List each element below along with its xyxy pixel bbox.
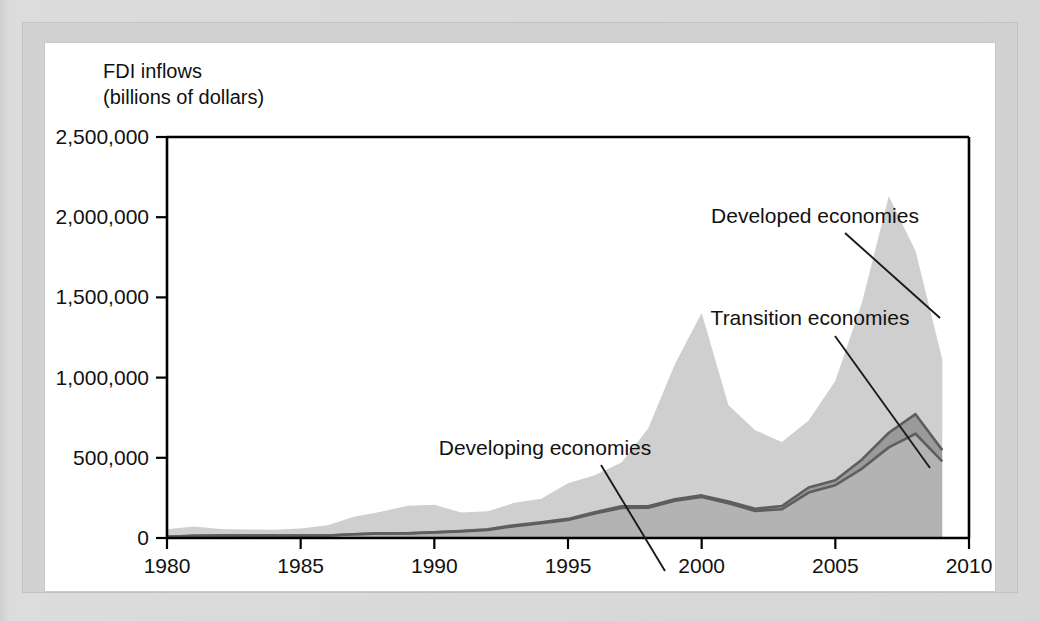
x-tick-label: 2005	[812, 554, 859, 577]
y-axis-title-line1: FDI inflows	[103, 60, 202, 82]
chart-panel: FDI inflows (billions of dollars) 0500,0…	[44, 42, 996, 592]
x-tick-label: 1990	[411, 554, 458, 577]
x-tick-label: 2000	[678, 554, 725, 577]
y-tick-label: 1,000,000	[56, 366, 149, 389]
annotation-label: Transition economies	[711, 306, 910, 329]
annotation-label: Developing economies	[439, 436, 651, 459]
y-tick-label: 0	[137, 526, 149, 549]
x-tick-label: 2010	[946, 554, 993, 577]
y-tick-label: 500,000	[73, 446, 149, 469]
x-axis-ticks: 1980198519901995200020052010	[144, 538, 993, 577]
axis-title-group: FDI inflows (billions of dollars)	[103, 60, 264, 108]
y-tick-label: 1,500,000	[56, 285, 149, 308]
figure-root: FDI inflows (billions of dollars) 0500,0…	[0, 0, 1040, 621]
y-tick-label: 2,500,000	[56, 125, 149, 148]
y-tick-label: 2,000,000	[56, 205, 149, 228]
x-tick-label: 1985	[277, 554, 324, 577]
y-axis-ticks: 0500,0001,000,0001,500,0002,000,0002,500…	[56, 125, 167, 549]
x-tick-label: 1995	[545, 554, 592, 577]
y-axis-title-line2: (billions of dollars)	[103, 86, 264, 108]
annotation-label: Developed economies	[711, 204, 919, 227]
x-tick-label: 1980	[144, 554, 191, 577]
fdi-inflows-area-chart: FDI inflows (billions of dollars) 0500,0…	[45, 43, 996, 592]
